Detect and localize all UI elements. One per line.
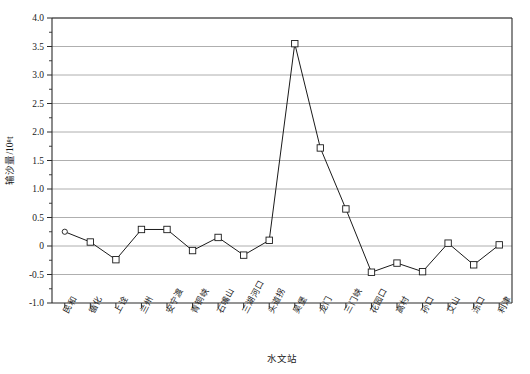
y-tick-label: 3.0 [32, 70, 44, 80]
data-point [215, 234, 221, 240]
series-line [65, 44, 499, 273]
y-axis-tick-labels: 4.03.53.02.52.01.51.00.50-0.5-1.0 [29, 13, 44, 308]
x-tick-label: 龙门 [317, 294, 334, 315]
x-tick-label: 泺口 [470, 294, 487, 315]
x-tick-label: 吴堡 [291, 294, 308, 315]
data-point [292, 40, 298, 46]
data-point [138, 226, 144, 232]
y-axis-ticks [47, 18, 52, 303]
data-point [240, 252, 246, 258]
y-tick-label: 1.0 [32, 184, 44, 194]
data-point-markers [62, 40, 502, 275]
x-tick-label: 青铜峡 [189, 286, 211, 315]
data-point [189, 247, 195, 253]
data-point [113, 256, 119, 262]
data-point [62, 229, 67, 234]
x-tick-label: 安宁渡 [163, 286, 185, 315]
y-tick-label: 0.5 [32, 213, 44, 223]
y-tick-label: -0.5 [29, 270, 44, 280]
y-tick-label: 2.0 [32, 127, 44, 137]
x-axis-tick-labels: 民和循化上诠兰州安宁渡青铜峡石嘴山三湖河口头道拐吴堡龙门三门峡花园口高村孙口艾山… [61, 278, 513, 314]
y-tick-label: 2.5 [32, 99, 44, 109]
y-tick-label: 4.0 [32, 13, 44, 23]
x-tick-label: 花园口 [368, 286, 390, 315]
data-point [164, 226, 170, 232]
x-tick-label: 三湖河口 [240, 278, 266, 314]
x-axis-ticks [65, 303, 499, 308]
grid-lines [52, 18, 512, 275]
data-point [87, 239, 93, 245]
data-point [266, 237, 272, 243]
y-tick-label: -1.0 [29, 298, 44, 308]
sediment-line-chart: 4.03.53.02.52.01.51.00.50-0.5-1.0 民和循化上诠… [0, 0, 530, 374]
x-tick-label: 头道拐 [266, 286, 288, 315]
y-tick-label: 0 [39, 241, 44, 251]
y-axis-title: 输沙量/10⁸t [4, 136, 15, 184]
x-axis-title: 水文站 [267, 353, 297, 364]
x-tick-label: 石嘴山 [215, 286, 237, 315]
data-point [343, 206, 349, 212]
data-point [496, 242, 502, 248]
y-tick-label: 1.5 [32, 156, 44, 166]
x-tick-label: 循化 [87, 294, 104, 315]
x-tick-label: 艾山 [445, 294, 462, 315]
x-tick-label: 利津 [496, 294, 513, 315]
data-point [419, 268, 425, 274]
x-tick-label: 上诠 [112, 294, 129, 315]
data-point [445, 240, 451, 246]
x-tick-label: 兰州 [138, 294, 155, 315]
x-tick-label: 三门峡 [342, 286, 364, 315]
x-tick-label: 孙口 [419, 294, 436, 315]
x-tick-label: 民和 [61, 294, 78, 315]
data-point [317, 145, 323, 151]
data-point [470, 262, 476, 268]
data-point [394, 260, 400, 266]
y-tick-label: 3.5 [32, 42, 44, 52]
x-tick-label: 高村 [393, 294, 410, 315]
chart-figure: 4.03.53.02.52.01.51.00.50-0.5-1.0 民和循化上诠… [0, 0, 530, 374]
data-point [368, 269, 374, 275]
